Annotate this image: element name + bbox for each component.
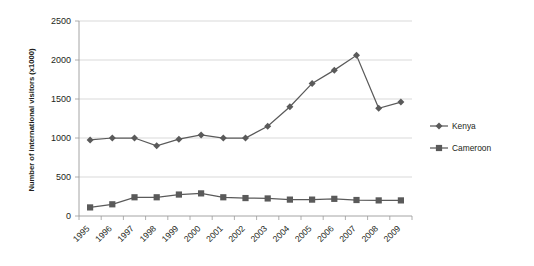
- data-point: [198, 190, 204, 196]
- y-tick-label: 2500: [51, 16, 71, 26]
- data-point: [242, 195, 248, 201]
- line-chart: 05001000150020002500 1995199619971998199…: [0, 0, 534, 266]
- y-tick-label: 2000: [51, 55, 71, 65]
- data-point: [220, 194, 226, 200]
- data-point: [331, 196, 337, 202]
- data-point: [87, 204, 93, 210]
- y-tick-label: 0: [66, 211, 71, 221]
- data-point: [376, 197, 382, 203]
- chart-background: [0, 0, 534, 266]
- legend-label: Cameroon: [452, 143, 491, 153]
- data-point: [309, 197, 315, 203]
- data-point: [131, 194, 137, 200]
- data-point: [265, 195, 271, 201]
- y-tick-label: 1500: [51, 94, 71, 104]
- chart-container: 05001000150020002500 1995199619971998199…: [0, 0, 534, 266]
- legend-label: Kenya: [452, 121, 476, 131]
- data-point: [176, 191, 182, 197]
- y-tick-label: 500: [56, 172, 71, 182]
- data-point: [287, 197, 293, 203]
- data-point: [353, 197, 359, 203]
- legend-marker: [436, 145, 442, 151]
- data-point: [398, 197, 404, 203]
- y-axis-title: Number of international visitors (x1000): [27, 48, 36, 192]
- y-tick-label: 1000: [51, 133, 71, 143]
- data-point: [154, 194, 160, 200]
- data-point: [109, 201, 115, 207]
